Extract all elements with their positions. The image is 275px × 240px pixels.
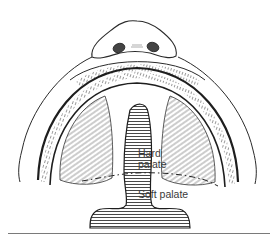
soft-palate-label: Soft palate — [138, 189, 188, 200]
horizontal-divider — [8, 233, 270, 234]
hard-palate-label-line2: palate — [138, 159, 167, 170]
nose-illustration — [92, 21, 177, 58]
cleft-palate-illustration — [0, 0, 275, 240]
hard-palate-label: Hard palate — [138, 148, 167, 170]
